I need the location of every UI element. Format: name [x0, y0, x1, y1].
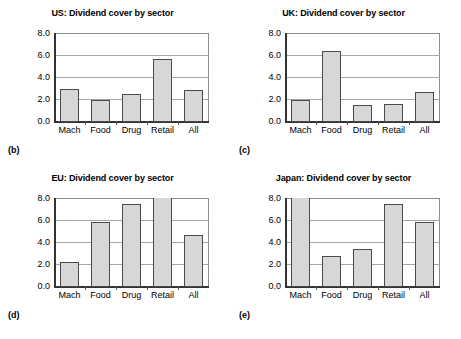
x-axis-minor-tick: [347, 286, 348, 290]
y-axis-tick-label: 8.0: [24, 28, 50, 38]
bar-series: [285, 27, 440, 122]
bar: [291, 100, 311, 121]
y-axis-tick-label: 2.0: [255, 259, 281, 269]
x-axis-tick-label: Retail: [382, 290, 405, 300]
panel-tag: (b): [8, 145, 20, 155]
bar-series: [54, 27, 209, 122]
x-axis-minor-tick: [147, 121, 148, 125]
bar: [353, 249, 373, 287]
x-axis-tick-label: Drug: [353, 125, 373, 135]
y-axis-tick-label: 2.0: [24, 259, 50, 269]
x-axis-tick-label: Mach: [289, 125, 311, 135]
x-axis-tick-label: Retail: [151, 125, 174, 135]
x-axis-minor-tick: [316, 286, 317, 290]
plot-area: 0.02.04.06.08.0 MachFoodDrugRetailAll: [54, 192, 209, 287]
y-axis-tick-label: 0.0: [24, 116, 50, 126]
bar: [122, 94, 142, 122]
bar: [153, 198, 173, 287]
x-axis-minor-tick: [116, 286, 117, 290]
y-axis-tick-label: 6.0: [255, 50, 281, 60]
plot-area: 0.02.04.06.08.0 MachFoodDrugRetailAll: [285, 27, 440, 122]
bar-series: [285, 192, 440, 287]
bar: [322, 51, 342, 121]
chart-title: UK: Dividend cover by sector: [231, 8, 456, 18]
x-axis-tick-label: Drug: [353, 290, 373, 300]
bar: [291, 198, 311, 287]
bar: [415, 222, 435, 287]
x-axis-minor-tick: [147, 286, 148, 290]
x-axis-tick-label: Retail: [382, 125, 405, 135]
bar: [153, 59, 173, 122]
bar: [60, 262, 80, 286]
y-axis-tick-label: 8.0: [255, 28, 281, 38]
y-axis-tick-label: 0.0: [24, 281, 50, 291]
x-axis-minor-tick: [316, 121, 317, 125]
y-axis-tick-label: 6.0: [24, 215, 50, 225]
x-axis-tick-label: All: [419, 290, 429, 300]
y-axis-tick-label: 4.0: [255, 72, 281, 82]
x-axis-tick-label: Mach: [289, 290, 311, 300]
chart-panel-japan: Japan: Dividend cover by sector 0.02.04.…: [231, 165, 461, 334]
bar: [184, 90, 204, 122]
x-axis-tick-label: Retail: [151, 290, 174, 300]
x-axis-tick-label: Food: [90, 125, 111, 135]
panel-tag: (d): [8, 310, 20, 320]
panel-tag: (c): [239, 145, 250, 155]
chart-panel-eu: EU: Dividend cover by sector 0.02.04.06.…: [0, 165, 230, 334]
x-axis-tick-label: Food: [90, 290, 111, 300]
y-axis-tick-label: 2.0: [255, 94, 281, 104]
y-axis-tick-label: 0.0: [255, 281, 281, 291]
x-axis-minor-tick: [409, 121, 410, 125]
chart-title: Japan: Dividend cover by sector: [231, 173, 456, 183]
y-axis-tick-label: 2.0: [24, 94, 50, 104]
x-axis-tick-label: Drug: [122, 125, 142, 135]
plot-area: 0.02.04.06.08.0 MachFoodDrugRetailAll: [54, 27, 209, 122]
chart-panel-us: US: Dividend cover by sector 0.02.04.06.…: [0, 0, 230, 169]
y-axis-tick-label: 4.0: [24, 237, 50, 247]
x-axis-minor-tick: [378, 286, 379, 290]
y-axis-tick-label: 4.0: [24, 72, 50, 82]
x-axis-minor-tick: [85, 286, 86, 290]
bar: [415, 92, 435, 121]
figure-panel-grid: US: Dividend cover by sector 0.02.04.06.…: [0, 0, 461, 339]
x-axis-tick-label: All: [188, 290, 198, 300]
x-axis-minor-tick: [178, 121, 179, 125]
bar: [322, 256, 342, 286]
bar: [91, 222, 111, 286]
x-axis-minor-tick: [116, 121, 117, 125]
bar: [353, 105, 373, 122]
bar: [60, 89, 80, 122]
x-axis-minor-tick: [85, 121, 86, 125]
x-axis-tick-label: Food: [321, 125, 342, 135]
panel-tag: (e): [239, 310, 250, 320]
x-axis-tick-label: Mach: [58, 125, 80, 135]
bar: [384, 104, 404, 121]
chart-title: EU: Dividend cover by sector: [0, 173, 225, 183]
x-axis-tick-label: Mach: [58, 290, 80, 300]
y-axis-tick-label: 6.0: [255, 215, 281, 225]
bar: [122, 204, 142, 287]
x-axis-minor-tick: [378, 121, 379, 125]
x-axis-tick-label: Drug: [122, 290, 142, 300]
y-axis-tick-label: 4.0: [255, 237, 281, 247]
plot-area: 0.02.04.06.08.0 MachFoodDrugRetailAll: [285, 192, 440, 287]
chart-title: US: Dividend cover by sector: [0, 8, 225, 18]
x-axis-tick-label: All: [188, 125, 198, 135]
x-axis-minor-tick: [178, 286, 179, 290]
x-axis-tick-label: All: [419, 125, 429, 135]
x-axis-minor-tick: [409, 286, 410, 290]
bar: [91, 100, 111, 122]
x-axis-minor-tick: [347, 121, 348, 125]
bar: [184, 235, 204, 287]
x-axis-tick-label: Food: [321, 290, 342, 300]
y-axis-tick-label: 8.0: [255, 193, 281, 203]
bar: [384, 204, 404, 287]
y-axis-tick-label: 0.0: [255, 116, 281, 126]
y-axis-tick-label: 6.0: [24, 50, 50, 60]
chart-panel-uk: UK: Dividend cover by sector 0.02.04.06.…: [231, 0, 461, 169]
bar-series: [54, 192, 209, 287]
y-axis-tick-label: 8.0: [24, 193, 50, 203]
